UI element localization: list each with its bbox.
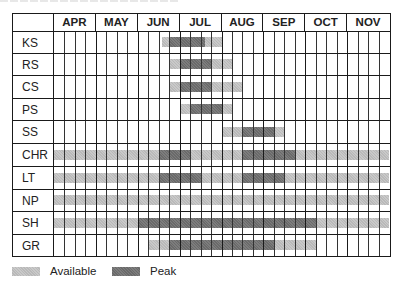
grid-line bbox=[379, 144, 380, 166]
grid-line bbox=[190, 121, 191, 143]
grid-line bbox=[75, 54, 76, 75]
grid-line bbox=[106, 99, 107, 120]
grid-line bbox=[211, 144, 212, 166]
grid-line bbox=[96, 235, 97, 256]
grid-line bbox=[316, 235, 317, 256]
grid-line bbox=[242, 121, 243, 143]
grid-line bbox=[379, 190, 380, 211]
grid-line bbox=[201, 212, 202, 234]
grid-line bbox=[358, 144, 359, 166]
grid-line bbox=[138, 212, 139, 234]
grid-line bbox=[169, 32, 170, 53]
cropped-title bbox=[0, 0, 180, 2]
grid-line bbox=[148, 121, 149, 143]
grid-line bbox=[117, 76, 118, 98]
grid-line bbox=[64, 99, 65, 120]
grid-line bbox=[201, 121, 202, 143]
grid-line bbox=[180, 212, 181, 234]
grid-line bbox=[316, 190, 317, 211]
available-swatch bbox=[12, 267, 40, 276]
grid-line bbox=[169, 167, 170, 189]
grid-line bbox=[201, 144, 202, 166]
grid-line bbox=[305, 32, 306, 53]
grid-line bbox=[295, 190, 296, 211]
row-label: CS bbox=[13, 76, 54, 98]
grid-line bbox=[368, 144, 369, 166]
grid-line bbox=[85, 167, 86, 189]
grid-line bbox=[222, 212, 223, 234]
grid-line bbox=[368, 76, 369, 98]
grid-line bbox=[127, 167, 128, 189]
grid-line bbox=[138, 167, 139, 189]
grid-line bbox=[85, 190, 86, 211]
row-ps: PS bbox=[13, 98, 390, 120]
grid-line bbox=[253, 99, 254, 120]
grid-line bbox=[326, 144, 327, 166]
grid-line bbox=[85, 144, 86, 166]
grid-line bbox=[159, 99, 160, 120]
row-label: PS bbox=[13, 99, 54, 120]
grid-line bbox=[379, 32, 380, 53]
grid-line bbox=[316, 76, 317, 98]
grid-line bbox=[127, 144, 128, 166]
grid-line bbox=[201, 167, 202, 189]
grid-line bbox=[347, 54, 348, 75]
grid-line bbox=[96, 32, 97, 53]
grid-line bbox=[263, 235, 264, 256]
month-header-sep: SEP bbox=[263, 14, 305, 31]
peak-bar bbox=[190, 104, 221, 114]
grid-line bbox=[253, 167, 254, 189]
grid-line bbox=[305, 212, 306, 234]
grid-line bbox=[117, 99, 118, 120]
grid-line bbox=[138, 235, 139, 256]
grid-line bbox=[96, 167, 97, 189]
grid-line bbox=[117, 212, 118, 234]
grid-line bbox=[64, 167, 65, 189]
grid-line bbox=[358, 190, 359, 211]
grid-line bbox=[201, 32, 202, 53]
grid-line bbox=[284, 99, 285, 120]
grid-line bbox=[148, 144, 149, 166]
grid-line bbox=[368, 32, 369, 53]
grid-line bbox=[117, 54, 118, 75]
row-label: NP bbox=[13, 190, 54, 211]
grid-line bbox=[326, 54, 327, 75]
grid-line bbox=[305, 190, 306, 211]
grid-line bbox=[232, 32, 233, 53]
grid-line bbox=[127, 190, 128, 211]
grid-line bbox=[148, 32, 149, 53]
grid-line bbox=[337, 32, 338, 53]
grid-line bbox=[117, 190, 118, 211]
row-sh: SH bbox=[13, 211, 390, 234]
row-gr: GR bbox=[13, 234, 390, 256]
peak-bar bbox=[242, 127, 273, 137]
grid-line bbox=[75, 99, 76, 120]
grid-line bbox=[180, 121, 181, 143]
grid-line bbox=[347, 167, 348, 189]
grid-line bbox=[106, 235, 107, 256]
grid-line bbox=[127, 54, 128, 75]
grid-line bbox=[295, 54, 296, 75]
grid-line bbox=[232, 190, 233, 211]
grid-line bbox=[222, 235, 223, 256]
grid-line bbox=[75, 235, 76, 256]
grid-line bbox=[64, 212, 65, 234]
grid-line bbox=[379, 212, 380, 234]
grid-line bbox=[379, 54, 380, 75]
grid-line bbox=[211, 212, 212, 234]
month-header-jul: JUL bbox=[180, 14, 222, 31]
grid-line bbox=[64, 144, 65, 166]
grid-line bbox=[117, 144, 118, 166]
grid-line bbox=[127, 32, 128, 53]
grid-line bbox=[326, 190, 327, 211]
month-header-may: MAY bbox=[96, 14, 138, 31]
availability-chart: APRMAYJUNJULAUGSEPOCTNOVKSRSCSPSSSCHRLTN… bbox=[12, 13, 391, 257]
month-header-jun: JUN bbox=[138, 14, 180, 31]
grid-line bbox=[85, 76, 86, 98]
grid-line bbox=[169, 54, 170, 75]
month-header-aug: AUG bbox=[222, 14, 264, 31]
grid-line bbox=[159, 212, 160, 234]
grid-line bbox=[284, 76, 285, 98]
grid-line bbox=[148, 167, 149, 189]
grid-line bbox=[211, 235, 212, 256]
